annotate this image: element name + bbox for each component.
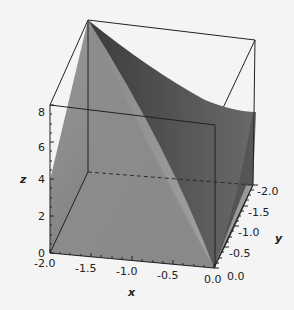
x-tick-label: -0.5	[157, 269, 178, 282]
x-tick-label: 0.0	[204, 273, 222, 286]
y-tick-label: -1.5	[248, 206, 269, 219]
3d-surface-plot: -2.0 -1.5 -1.0 -0.5 0.0 x 0.0 -0.5 -1.0 …	[0, 0, 294, 310]
y-tick-label: -1.0	[238, 226, 259, 239]
z-tick-label: 6	[38, 141, 45, 154]
y-axis-label: y	[275, 232, 283, 245]
x-tick-label: -1.0	[116, 265, 137, 278]
z-tick-label: 2	[38, 210, 45, 223]
z-axis: 0 2 4 6 8 z	[19, 105, 54, 260]
y-tick-label: -2.0	[257, 185, 278, 198]
x-tick-label: -1.5	[75, 262, 96, 275]
x-axis-label: x	[127, 286, 136, 299]
surface	[50, 20, 256, 268]
z-axis-label: z	[19, 173, 27, 186]
z-tick-label: 8	[38, 106, 45, 119]
y-tick-label: 0.0	[227, 270, 245, 283]
y-tick-label: -0.5	[229, 247, 250, 260]
z-tick-label: 0	[38, 247, 45, 260]
z-tick-label: 4	[38, 173, 45, 186]
